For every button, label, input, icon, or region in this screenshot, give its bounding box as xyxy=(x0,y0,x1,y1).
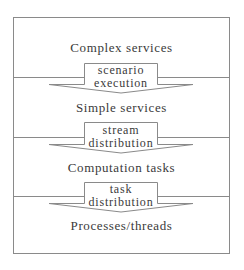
transition-line-2: distribution xyxy=(85,137,157,150)
layer-label-simple-services: Simple services xyxy=(13,100,230,116)
layer-label-computation-tasks: Computation tasks xyxy=(13,160,230,176)
transition-label-stream-distribution: stream distribution xyxy=(85,124,157,150)
layer-label-processes-threads: Processes/threads xyxy=(13,218,230,234)
transition-label-task-distribution: task distribution xyxy=(85,183,157,209)
layer-label-complex-services: Complex services xyxy=(13,40,230,56)
transition-label-scenario-execution: scenario execution xyxy=(85,64,157,90)
transition-line-2: distribution xyxy=(85,196,157,209)
transition-line-2: execution xyxy=(85,77,157,90)
